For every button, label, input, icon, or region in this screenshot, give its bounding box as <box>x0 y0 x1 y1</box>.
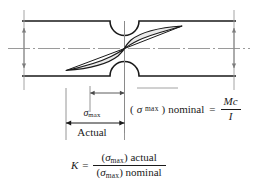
actual-dimension-arrow-right <box>119 121 124 126</box>
fraction-numerator-mc: Mc <box>221 96 241 109</box>
actual-text-label: Actual <box>66 127 118 138</box>
bar-bottom-edge-with-notch <box>22 62 236 76</box>
k-symbol: K <box>71 160 78 171</box>
k-num-word: actual <box>130 151 156 163</box>
k-den-max-subscript: max <box>106 171 119 180</box>
k-numerator: (σmax) actual <box>97 152 160 165</box>
nominal-stress-equation: (σmax) nominal = Mc I <box>130 96 241 122</box>
nominal-max-subscript: max <box>145 105 158 112</box>
k-den-close-paren: ) <box>119 166 123 178</box>
nominal-close-paren: ) <box>162 104 166 115</box>
max-subscript: max <box>88 111 100 118</box>
nominal-word: nominal <box>168 104 204 115</box>
upper-short-dimension-arrow-left <box>90 91 95 95</box>
k-denominator: (σmax) nominal <box>93 165 166 179</box>
stress-concentration-figure: σmax Actual (σmax) nominal = Mc I K = (σ… <box>0 0 258 189</box>
stress-concentration-factor-equation: K = (σmax) actual (σmax) nominal <box>71 152 166 180</box>
actual-dimension-arrow-left <box>66 121 71 126</box>
stress-curve-lower-chord <box>66 49 125 71</box>
fraction-denominator-i: I <box>221 109 241 123</box>
sigma-max-actual-label: σmax <box>68 108 116 119</box>
k-den-word: nominal <box>126 166 162 178</box>
k-equals-sign: = <box>82 160 88 171</box>
k-num-max-subscript: max <box>111 156 124 165</box>
nominal-equals-sign: = <box>207 104 217 115</box>
mc-over-i-fraction: Mc I <box>221 96 241 122</box>
k-fraction: (σmax) actual (σmax) nominal <box>93 152 166 180</box>
nominal-sigma-symbol: σ <box>137 104 142 115</box>
bar-top-edge-with-notch <box>22 21 236 35</box>
upper-short-dimension-arrow-right <box>120 91 125 95</box>
nominal-open-paren: ( <box>130 104 134 115</box>
k-num-close-paren: ) <box>124 151 128 163</box>
stress-curve-upper-chord <box>125 26 183 49</box>
